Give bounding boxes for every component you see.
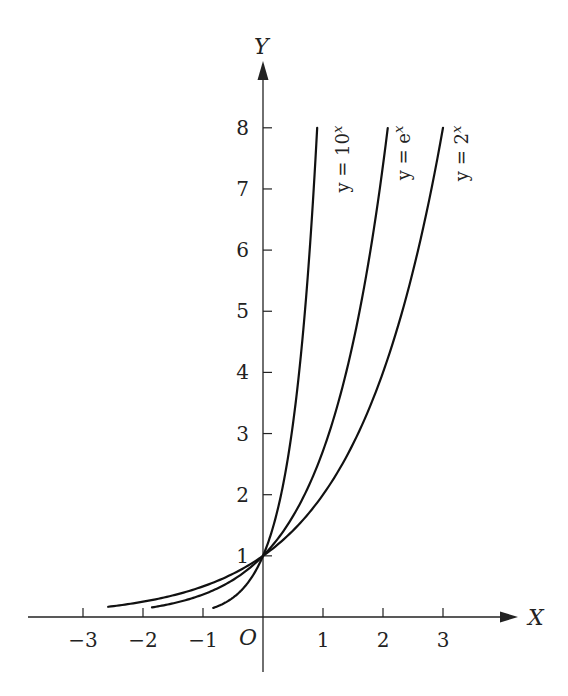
y-tick-label: 2 — [236, 483, 249, 507]
x-tick-label: −3 — [68, 628, 97, 652]
y-tick-label: 7 — [236, 177, 249, 201]
y-tick-label: 8 — [236, 116, 249, 140]
x-axis-arrow-icon — [500, 612, 518, 623]
x-ticks: −3−2−1123 — [68, 608, 449, 652]
x-tick-label: −2 — [128, 628, 157, 652]
curve-labels: y = 10xy = exy = 2x — [330, 125, 472, 194]
axes: X Y O — [28, 34, 545, 672]
curves — [108, 128, 443, 608]
y-tick-label: 6 — [236, 238, 249, 262]
y-tick-label: 1 — [236, 544, 249, 568]
curve-label: y = ex — [391, 125, 414, 181]
x-tick-label: 2 — [377, 628, 390, 652]
y-tick-label: 3 — [236, 422, 249, 446]
x-tick-label: −1 — [188, 628, 217, 652]
curve-label: y = 10x — [330, 125, 353, 194]
exponential-functions-chart: X Y O −3−2−1123 12345678 y = 10xy = exy … — [0, 0, 568, 696]
y-axis-arrow-icon — [258, 61, 269, 80]
y-tick-label: 5 — [236, 299, 249, 323]
curve-label: y = 2x — [449, 125, 472, 182]
curve-2-pow-x — [108, 128, 443, 607]
y-axis-label: Y — [254, 34, 271, 59]
y-tick-label: 4 — [236, 360, 249, 384]
origin-label: O — [239, 625, 257, 650]
x-tick-label: 3 — [437, 628, 450, 652]
curve-10-pow-x — [213, 128, 317, 608]
y-ticks: 12345678 — [236, 116, 272, 568]
x-tick-label: 1 — [317, 628, 330, 652]
x-axis-label: X — [526, 605, 545, 630]
